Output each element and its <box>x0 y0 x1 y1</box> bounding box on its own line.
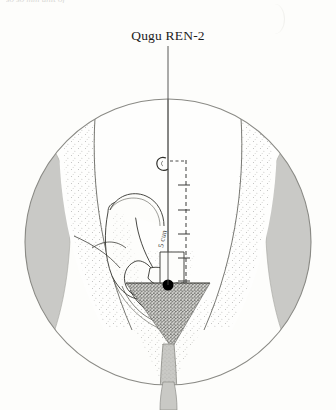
book-page: so so mm unit of Qugu REN-2 <box>0 0 336 410</box>
anatomical-illustration: 5 cun <box>0 0 336 410</box>
perineal-band-overflow <box>160 382 177 410</box>
illustration-svg: 5 cun <box>0 0 336 410</box>
